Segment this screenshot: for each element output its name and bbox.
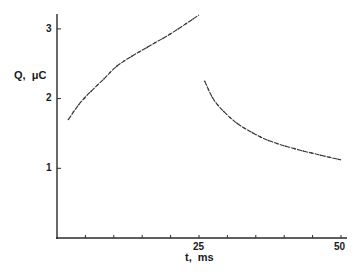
data-point-marker (162, 38, 164, 40)
data-point-marker (212, 97, 214, 99)
y-axis-label: Q, μC (14, 69, 46, 81)
data-point-marker (204, 80, 206, 82)
data-point-marker (223, 111, 225, 113)
data-point-marker (329, 156, 331, 158)
axes (56, 14, 347, 239)
x-tick-label-50: 50 (334, 241, 345, 252)
data-point-marker (217, 104, 219, 106)
data-point-marker (276, 143, 278, 145)
data-point-marker (131, 56, 133, 58)
data-point-marker (90, 91, 92, 93)
data-point-marker (154, 42, 156, 44)
data-point-marker (103, 78, 105, 80)
x-axis-label: t, ms (185, 251, 214, 263)
y-tick-label-1: 1 (46, 162, 52, 173)
y-tick-label-2: 2 (46, 92, 52, 103)
data-point-marker (320, 154, 322, 156)
data-point-marker (252, 132, 254, 134)
data-point-marker (97, 84, 99, 86)
data-point-marker (268, 140, 270, 142)
data-point-marker (229, 117, 231, 119)
data-point-marker (84, 97, 86, 99)
chart-plot-area (0, 0, 357, 276)
data-point-marker (123, 60, 125, 62)
data-point-marker (337, 158, 339, 160)
data-point-marker (73, 111, 75, 113)
y-tick-label-3: 3 (46, 23, 52, 34)
x-tick-label-25: 25 (193, 241, 204, 252)
data-curves (68, 15, 341, 160)
data-point-marker (294, 148, 296, 150)
data-point-marker (185, 23, 187, 25)
data-point-marker (109, 72, 111, 74)
data-point-marker (116, 66, 118, 68)
data-point-marker (302, 150, 304, 152)
data-point-marker (170, 33, 172, 35)
curve-charging (68, 15, 199, 120)
data-point-marker (177, 28, 179, 30)
data-point-marker (68, 119, 70, 121)
curve-discharging (205, 81, 341, 160)
data-point-marker (139, 51, 141, 53)
data-point-marker (78, 104, 80, 106)
data-point-marker (146, 47, 148, 49)
data-point-marker (311, 152, 313, 154)
data-point-marker (208, 89, 210, 91)
data-point-marker (236, 123, 238, 125)
data-point-marker (244, 128, 246, 130)
data-point-marker (285, 145, 287, 147)
data-point-marker (260, 136, 262, 138)
data-point-marker (192, 18, 194, 20)
